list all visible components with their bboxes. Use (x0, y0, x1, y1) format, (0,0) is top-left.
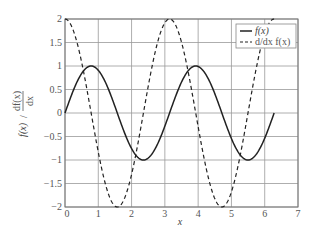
x-tick-label: 0 (65, 208, 70, 219)
y-tick-label: 0.5 (50, 84, 63, 95)
y-axis-label-denominator: dx (24, 96, 35, 106)
y-tick-label: −1 (51, 154, 62, 165)
y-tick-label: 1.5 (50, 37, 63, 48)
y-tick-label: 1 (57, 60, 62, 71)
y-axis-label-slash: / (18, 115, 29, 118)
x-axis-ticks: 01234567 (65, 208, 301, 219)
legend-item-derivative: d/dx f(x) (255, 36, 290, 48)
x-axis-label: x (177, 216, 183, 227)
y-axis-label-numerator: df(x) (11, 91, 23, 111)
y-axis-label: f(x) / df(x) dx (11, 91, 35, 137)
y-tick-label: 2 (57, 13, 62, 24)
y-tick-label: −2 (51, 201, 62, 212)
x-tick-label: 3 (162, 208, 167, 219)
y-tick-label: −1.5 (44, 178, 62, 189)
x-tick-label: 4 (196, 208, 201, 219)
y-tick-label: 0 (57, 107, 62, 118)
x-tick-label: 1 (96, 208, 101, 219)
y-axis-label-f: f(x) (17, 122, 29, 137)
y-axis-ticks: 21.510.50−0.5−1−1.5−2 (44, 13, 62, 212)
line-chart: 01234567 21.510.50−0.5−1−1.5−2 x f(x) / … (0, 0, 315, 239)
y-tick-label: −0.5 (44, 131, 62, 142)
x-tick-label: 6 (262, 208, 267, 219)
x-tick-label: 2 (129, 208, 134, 219)
legend: f(x) d/dx f(x) (236, 24, 296, 48)
x-tick-label: 5 (229, 208, 234, 219)
x-tick-label: 7 (296, 208, 301, 219)
